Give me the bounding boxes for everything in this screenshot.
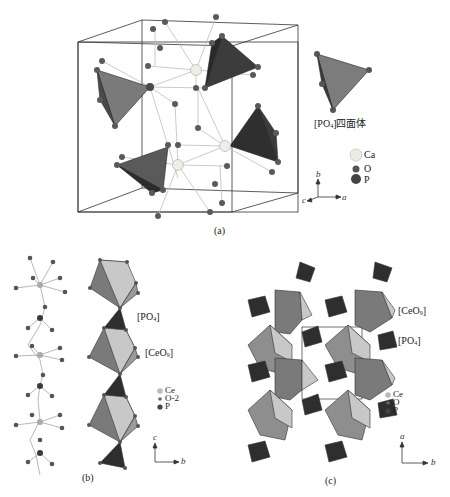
- legend-o-label: O: [364, 164, 371, 174]
- panel-b-structure: [0, 250, 230, 497]
- b-ceo9-label: [CeO9]: [145, 348, 173, 358]
- axis-a-label: a: [342, 193, 347, 202]
- po4-tetrahedron-label: [PO4]四面体: [314, 119, 366, 129]
- caption-b: (b): [82, 472, 94, 483]
- panel-c-structure: [230, 250, 450, 497]
- axis-c-label: c: [302, 196, 306, 205]
- b-po4-label: [PO4]: [137, 312, 159, 322]
- legend-ca-label: Ca: [364, 150, 375, 160]
- b-axis-b-label: b: [181, 457, 186, 466]
- c-legend-p-label: P: [393, 406, 398, 415]
- panel-a-structure: [0, 0, 450, 240]
- c-ceo9-label: [CeO9]: [398, 306, 426, 316]
- panel-b: [PO4] [CeO9] Ce O-2 P c b (b): [0, 250, 230, 497]
- c-po4-label: [PO4]: [398, 336, 420, 346]
- c-axis-a-label: a: [400, 432, 405, 441]
- panel-c: [CeO9] [PO4] Ce O P a b (c): [230, 250, 450, 497]
- caption-a: (a): [214, 225, 225, 236]
- c-axis-b-label: b: [431, 458, 436, 467]
- panel-a: [PO4]四面体 Ca O P b a c (a): [0, 0, 450, 240]
- legend-p-label: P: [364, 175, 370, 185]
- b-legend-p-label: P: [165, 402, 170, 411]
- b-axis-c-label: c: [153, 433, 157, 442]
- caption-c: (c): [325, 475, 336, 486]
- axis-b-label: b: [316, 170, 321, 179]
